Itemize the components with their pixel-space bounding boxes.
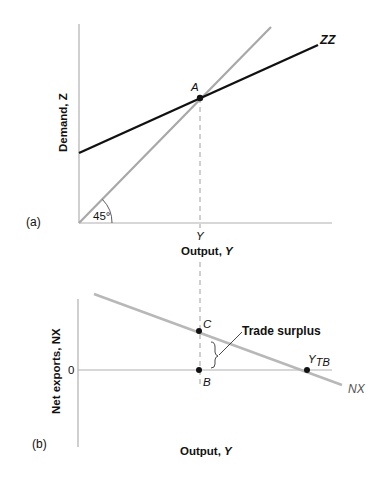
line-45-degree <box>79 27 271 223</box>
zero-label: 0 <box>68 364 74 376</box>
trade-surplus-label: Trade surplus <box>242 324 321 338</box>
point-c-marker <box>196 328 202 334</box>
point-b-label: B <box>203 376 211 388</box>
panel-b-ylabel: Net exports, NX <box>50 328 62 414</box>
panel-a-tag: (a) <box>26 215 41 229</box>
panel-a-ylabel: Demand, Z <box>57 93 69 152</box>
nx-curve-label: NX <box>348 382 366 396</box>
point-c-label: C <box>203 318 212 330</box>
panel-b-xlabel: Output, Y <box>180 445 233 457</box>
panel-b-tag: (b) <box>32 437 47 451</box>
zz-label: ZZ <box>319 33 337 47</box>
ytb-label: YTB <box>308 353 330 368</box>
point-a-label: A <box>190 81 199 93</box>
trade-surplus-leader <box>219 332 242 355</box>
panel-a-xlabel: Output, Y <box>181 245 234 257</box>
angle-label: 45° <box>93 210 110 222</box>
panel-b: C B Trade surplus YTB NX 0 (b) Output, Y… <box>32 294 366 457</box>
point-a-marker <box>197 95 203 101</box>
trade-surplus-brace <box>211 342 218 368</box>
diagram-canvas: (a) 45° A ZZ Y Output, Y Demand, Z C B T… <box>0 0 384 478</box>
x-tick-y-label: Y <box>196 230 205 242</box>
point-b-marker <box>196 367 202 373</box>
point-ytb-marker <box>304 367 310 373</box>
